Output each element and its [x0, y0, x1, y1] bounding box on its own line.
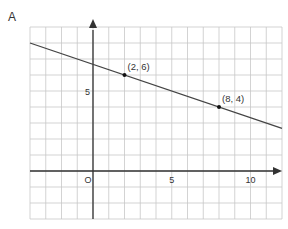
x-axis-arrow-icon [273, 167, 282, 175]
origin-label: O [84, 175, 91, 185]
point-label: (2, 6) [128, 61, 150, 72]
x-tick-label: 10 [245, 175, 255, 185]
data-point [217, 105, 221, 109]
y-tick-label: 5 [85, 87, 90, 97]
data-point [123, 73, 127, 77]
point-label: (8, 4) [222, 93, 244, 104]
y-axis-arrow-icon [89, 19, 97, 28]
x-tick-label: 5 [169, 175, 174, 185]
coordinate-plane: 5105O(2, 6)(8, 4) [0, 0, 288, 229]
